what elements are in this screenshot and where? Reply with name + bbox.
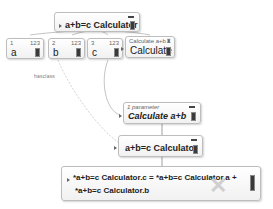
- formula-line-2: *a+b=c Calculator.b: [75, 186, 149, 195]
- collapse-icon[interactable]: [189, 106, 195, 108]
- calculator-label: a+b=c Calculator: [125, 143, 198, 153]
- calc-header: 1 parameter: [127, 104, 159, 110]
- drag-handle[interactable]: [191, 112, 196, 121]
- parameter-node-b[interactable]: 2123 b: [48, 38, 85, 59]
- drag-handle[interactable]: [250, 175, 255, 191]
- bullet-icon: [119, 114, 122, 118]
- param-label: c: [92, 47, 97, 58]
- drag-handle[interactable]: [76, 48, 81, 57]
- root-node[interactable]: a+b=c Calculator: [54, 12, 140, 32]
- calculate-node[interactable]: 1 parameter Calculate a+b: [123, 102, 201, 124]
- action-node[interactable]: Calculate a+b♜ Calculate: [125, 36, 175, 58]
- edge-label: hasclass: [34, 73, 55, 79]
- root-node-label: a+b=c Calculator: [65, 20, 138, 30]
- parameter-node-a[interactable]: 1123 a: [6, 38, 44, 59]
- calculator-node[interactable]: a+b=c Calculator: [118, 135, 203, 157]
- bullet-icon: [121, 47, 124, 51]
- collapse-icon[interactable]: [128, 16, 134, 18]
- bullet-icon: [114, 146, 117, 150]
- param-index: 2: [52, 40, 55, 46]
- close-icon[interactable]: ✕: [209, 175, 227, 197]
- calc-label: Calculate a+b: [128, 111, 186, 121]
- number-type-badge: 123: [30, 40, 40, 47]
- drag-handle[interactable]: [193, 145, 198, 154]
- drag-handle[interactable]: [166, 47, 171, 56]
- drag-handle[interactable]: [35, 48, 40, 57]
- bullet-icon: [67, 178, 70, 182]
- action-header: Calculate a+b: [129, 38, 166, 44]
- param-label: b: [53, 47, 59, 58]
- trophy-icon: ♜: [166, 38, 171, 45]
- formula-node[interactable]: *a+b=c Calculator.c = *a+b=c Calculator.…: [61, 166, 261, 201]
- collapse-icon[interactable]: [191, 139, 197, 141]
- number-type-badge: 123: [71, 40, 81, 47]
- param-index: 1: [10, 40, 13, 46]
- parameter-node-c[interactable]: 3123 c: [87, 38, 123, 59]
- drag-handle[interactable]: [130, 21, 135, 30]
- param-label: a: [11, 47, 17, 58]
- bullet-icon: [59, 24, 62, 28]
- number-type-badge: 123: [109, 40, 119, 47]
- param-index: 3: [91, 40, 94, 46]
- drag-handle[interactable]: [114, 48, 119, 57]
